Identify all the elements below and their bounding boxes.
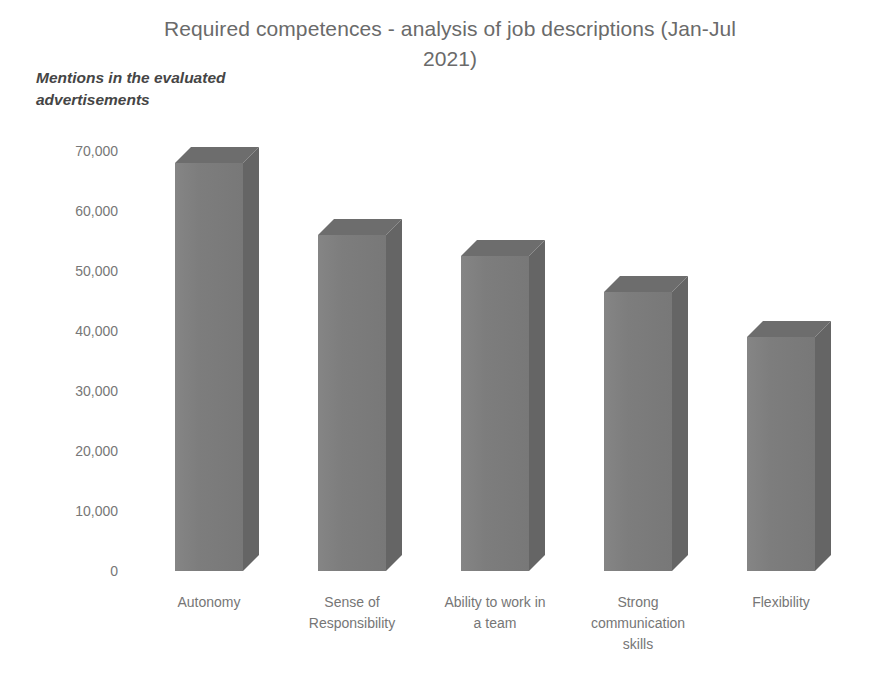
bar-side-face [815, 321, 831, 571]
x-axis-tick-label: Ability to work ina team [425, 592, 565, 634]
bar-series [0, 0, 882, 683]
x-axis-tick-label-line: Sense of [282, 592, 422, 613]
bar-front-face [604, 292, 672, 571]
x-axis-tick-labels: AutonomySense ofResponsibilityAbility to… [0, 592, 882, 682]
x-axis-tick-label: Sense ofResponsibility [282, 592, 422, 634]
bar-front-face [318, 235, 386, 571]
bar-column [747, 321, 815, 571]
plot-area: 70,00060,00050,00040,00030,00020,00010,0… [0, 0, 882, 683]
x-axis-tick-label-line: communication [568, 613, 708, 634]
bar-column [604, 276, 672, 571]
bar-front-face [461, 256, 529, 571]
bar-column [318, 219, 386, 571]
bar-side-face [386, 219, 402, 571]
x-axis-tick-label-line: Ability to work in [425, 592, 565, 613]
bar-front-face [175, 163, 243, 571]
x-axis-tick-label-line: skills [568, 634, 708, 655]
x-axis-tick-label-line: Strong [568, 592, 708, 613]
x-axis-tick-label-line: Flexibility [711, 592, 851, 613]
bar-front-face [747, 337, 815, 571]
bar-column [461, 240, 529, 571]
x-axis-tick-label-line: a team [425, 613, 565, 634]
bar-column [175, 147, 243, 571]
x-axis-tick-label: Strongcommunicationskills [568, 592, 708, 655]
bar-side-face [529, 240, 545, 571]
x-axis-tick-label: Flexibility [711, 592, 851, 613]
bar-side-face [672, 276, 688, 571]
bar-side-face [243, 147, 259, 571]
x-axis-tick-label: Autonomy [139, 592, 279, 613]
x-axis-tick-label-line: Responsibility [282, 613, 422, 634]
x-axis-tick-label-line: Autonomy [139, 592, 279, 613]
